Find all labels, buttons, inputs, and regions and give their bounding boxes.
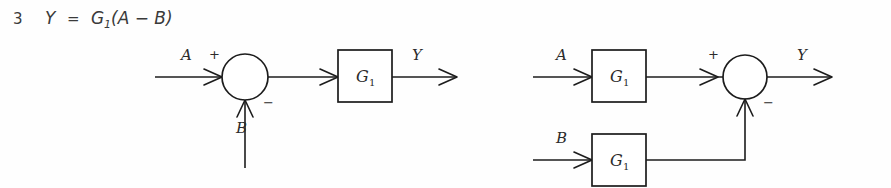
gain-block-g1-lower-label: G [610,151,623,170]
input-sign-b-minus: − [263,95,274,110]
right-diagram: A G 1 + Y B G 1 − [533,46,832,186]
summing-junction [222,54,268,100]
gain-block-g1-upper-label: G [610,67,623,86]
block-diagram-figure: 3 Y = G 1 (A − B) A + B − [0,0,891,188]
junction-sign-minus: − [763,95,774,110]
gain-block-g1-label: G [356,67,369,86]
summing-junction [723,55,767,99]
equation-lhs: Y [45,8,57,28]
input-label-a: A [179,46,192,64]
left-diagram: A + B − G 1 Y [155,46,457,168]
equation-equals: = [67,10,80,28]
gain-block-g1-upper-subscript: 1 [623,77,629,88]
input-label-a: A [554,46,567,64]
wire-lower-block-to-junction [646,99,745,160]
gain-block-g1-lower-subscript: 1 [623,161,629,172]
equation-gain: G [91,8,104,28]
input-sign-a-plus: + [209,47,220,62]
equation-gain-subscript: 1 [104,18,111,31]
figure-canvas: 3 Y = G 1 (A − B) A + B − [0,0,891,188]
equation-rhs: (A − B) [111,8,173,28]
junction-sign-plus: + [708,47,719,62]
equation-line: 3 Y = G 1 (A − B) [13,8,173,31]
input-label-b: B [235,119,247,137]
equation-number: 3 [13,10,23,28]
output-label-y: Y [412,46,424,64]
gain-block-g1-subscript: 1 [369,77,375,88]
output-label-y: Y [797,46,809,64]
input-label-b: B [555,129,567,147]
